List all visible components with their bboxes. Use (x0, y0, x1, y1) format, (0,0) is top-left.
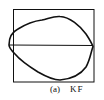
figure-name: KF (70, 84, 84, 94)
horizontal-axis-line (9, 45, 93, 46)
figure-caption: (a)KF (50, 84, 84, 94)
closed-curve (9, 16, 93, 80)
figure-label: (a) (50, 84, 60, 94)
